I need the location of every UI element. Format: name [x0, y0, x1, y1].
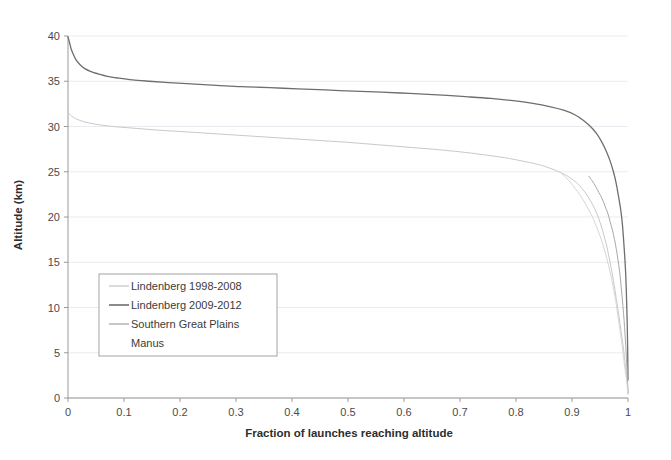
x-tick-label: 0.5 [340, 406, 355, 418]
y-axis-title: Altitude (km) [12, 180, 24, 250]
legend: Lindenberg 1998-2008Lindenberg 2009-2012… [99, 274, 277, 356]
x-tick-label: 0.6 [396, 406, 411, 418]
y-tick-label: 30 [48, 121, 60, 133]
x-tick-label: 0.3 [228, 406, 243, 418]
legend-label: Lindenberg 1998-2008 [131, 280, 242, 292]
y-tick-label: 35 [48, 75, 60, 87]
x-tick-label: 1 [625, 406, 631, 418]
y-tick-label: 10 [48, 302, 60, 314]
series-line [561, 173, 628, 395]
x-tick-label: 0.2 [172, 406, 187, 418]
y-tick-label: 40 [48, 30, 60, 42]
ytick-labels-group: 0510152025303540 [48, 30, 68, 404]
x-axis-title: Fraction of launches reaching altitude [245, 427, 453, 439]
chart-container: 0510152025303540 00.10.20.30.40.50.60.70… [0, 0, 671, 460]
altitude-distribution-chart: 0510152025303540 00.10.20.30.40.50.60.70… [0, 0, 671, 460]
legend-label: Lindenberg 2009-2012 [131, 299, 242, 311]
legend-label: Manus [131, 337, 165, 349]
y-tick-label: 5 [54, 347, 60, 359]
x-tick-label: 0.4 [284, 406, 299, 418]
x-tick-label: 0.1 [116, 406, 131, 418]
x-tick-label: 0.8 [508, 406, 523, 418]
x-tick-label: 0 [65, 406, 71, 418]
x-tick-label: 0.9 [564, 406, 579, 418]
x-tick-label: 0.7 [452, 406, 467, 418]
y-tick-label: 20 [48, 211, 60, 223]
y-tick-label: 25 [48, 166, 60, 178]
y-tick-label: 15 [48, 256, 60, 268]
y-tick-label: 0 [54, 392, 60, 404]
xtick-labels-group: 00.10.20.30.40.50.60.70.80.91 [65, 398, 631, 418]
legend-label: Southern Great Plains [131, 318, 240, 330]
